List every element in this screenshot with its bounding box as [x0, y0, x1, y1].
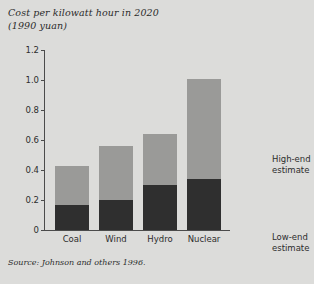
x-axis-line [44, 230, 230, 231]
bar-segment-low-end[interactable] [187, 179, 221, 230]
y-tick-label: 1.2 [25, 45, 39, 55]
annotation-high-end-line1: High-end [272, 154, 311, 165]
annotation-high-end: High-end estimate [272, 154, 311, 176]
y-tick-label: 0.6 [25, 135, 39, 145]
y-tick-label: 0.2 [25, 195, 39, 205]
chart-title-line2: (1990 yuan) [8, 19, 288, 32]
y-tick-mark [41, 170, 44, 171]
y-tick-mark [41, 50, 44, 51]
y-tick-mark [41, 200, 44, 201]
annotation-low-end: Low-end estimate [272, 232, 309, 254]
bar-segment-low-end[interactable] [99, 200, 133, 230]
bar-group[interactable] [187, 79, 221, 231]
y-tick-mark [41, 230, 44, 231]
x-tick-label: Nuclear [174, 234, 234, 244]
y-tick-label: 0.4 [25, 165, 39, 175]
y-tick-mark [41, 80, 44, 81]
y-tick-label: 0 [34, 225, 39, 235]
chart-title: Cost per kilowatt hour in 2020 (1990 yua… [8, 6, 288, 32]
source-note: Source: Johnson and others 1996. [8, 258, 146, 267]
chart-title-line1: Cost per kilowatt hour in 2020 [8, 6, 288, 19]
bar-group[interactable] [143, 134, 177, 230]
y-tick-mark [41, 140, 44, 141]
y-axis-line [44, 50, 45, 230]
plot-area: 00.20.40.60.81.01.2 CoalWindHydroNuclear… [44, 50, 264, 230]
y-tick-label: 1.0 [25, 75, 39, 85]
annotation-low-end-line2: estimate [272, 243, 309, 254]
bar-group[interactable] [55, 166, 89, 231]
chart-figure: Cost per kilowatt hour in 2020 (1990 yua… [0, 0, 314, 284]
annotation-high-end-line2: estimate [272, 165, 311, 176]
y-tick-mark [41, 110, 44, 111]
bar-segment-low-end[interactable] [55, 205, 89, 231]
bar-group[interactable] [99, 146, 133, 230]
y-tick-label: 0.8 [25, 105, 39, 115]
annotation-low-end-line1: Low-end [272, 232, 309, 243]
bar-segment-low-end[interactable] [143, 185, 177, 230]
